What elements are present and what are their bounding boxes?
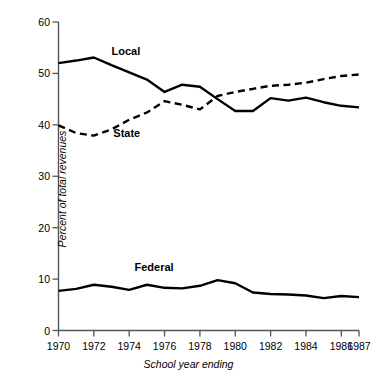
x-tick-label: 1987: [347, 340, 370, 352]
y-tick-label: 20: [18, 222, 50, 234]
x-axis-ticks: [59, 331, 360, 337]
x-tick-label: 1974: [118, 340, 141, 352]
y-tick-label: 10: [18, 273, 50, 285]
x-tick-label: 1978: [188, 340, 211, 352]
chart-container: 0102030405060 19701972197419761978198019…: [0, 0, 377, 378]
x-axis-title: School year ending: [144, 358, 234, 370]
x-tick-label: 1970: [47, 340, 70, 352]
data-series-group: [59, 57, 360, 298]
y-tick-label: 60: [18, 16, 50, 28]
y-tick-label: 40: [18, 119, 50, 131]
x-tick-label: 1980: [224, 340, 247, 352]
series-label-state: State: [113, 127, 140, 139]
x-tick-label: 1982: [259, 340, 282, 352]
series-label-federal: Federal: [135, 261, 174, 273]
x-tick-label: 1972: [82, 340, 105, 352]
y-axis-title: Percent of total revenues: [56, 131, 68, 248]
y-tick-label: 50: [18, 67, 50, 79]
x-tick-label: 1976: [153, 340, 176, 352]
series-label-local: Local: [112, 45, 141, 57]
series-line-state: [59, 74, 360, 135]
series-line-federal: [59, 280, 360, 298]
y-tick-label: 30: [18, 170, 50, 182]
x-tick-label: 1984: [294, 340, 317, 352]
y-tick-label: 0: [18, 325, 50, 337]
